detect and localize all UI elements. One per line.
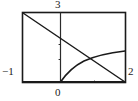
x-max-label: 2 [128,66,134,77]
plot-canvas [0,0,138,101]
x-zero-label: 0 [55,87,61,98]
x-min-label: −1 [2,66,14,77]
y-max-label: 3 [55,0,61,10]
function-plot-figure: 3 −1 0 2 [0,0,138,101]
